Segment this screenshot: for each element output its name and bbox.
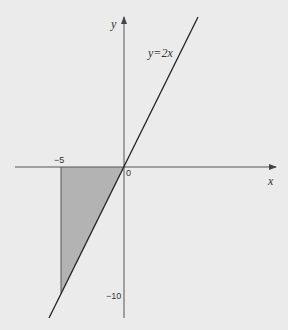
y-tick-label-minus-10: −10 xyxy=(106,291,121,301)
diagram-canvas: y y=2x −5 0 −10 x xyxy=(0,0,288,330)
equation-label: y=2x xyxy=(147,46,173,60)
coordinate-plane: y y=2x −5 0 −10 x xyxy=(0,0,288,330)
x-axis-label: x xyxy=(267,174,274,188)
x-tick-label-minus-5: −5 xyxy=(54,155,64,165)
origin-label: 0 xyxy=(126,168,131,178)
y-axis-label: y xyxy=(110,17,117,31)
